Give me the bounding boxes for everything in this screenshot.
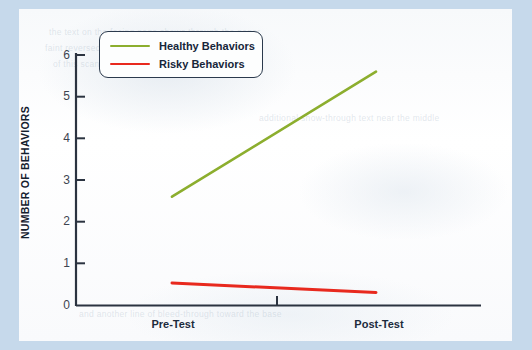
y-tick-marks [76,55,85,263]
line-chart [0,0,532,350]
series-line-risky-behaviors [172,283,376,293]
y-tick-label: 2 [52,214,70,228]
y-tick-label: 0 [52,298,70,312]
legend-swatch-healthy-behaviors [110,45,150,48]
y-tick-label: 3 [52,173,70,187]
legend-label-risky-behaviors: Risky Behaviors [159,58,245,70]
y-tick-label: 4 [52,131,70,145]
chart-legend: Healthy Behaviors Risky Behaviors [99,31,263,78]
legend-item-healthy-behaviors[interactable]: Healthy Behaviors [100,37,262,55]
y-tick-label: 5 [52,89,70,103]
y-tick-label: 6 [52,48,70,62]
x-tick-label-pre-test: Pre-Test [138,318,208,330]
legend-swatch-risky-behaviors [110,63,150,66]
y-tick-label: 1 [52,256,70,270]
series-line-healthy-behaviors [172,72,376,197]
legend-label-healthy-behaviors: Healthy Behaviors [159,40,255,52]
x-tick-label-post-test: Post-Test [344,318,414,330]
legend-item-risky-behaviors[interactable]: Risky Behaviors [100,55,262,73]
y-axis-title: NUMBER OF BEHAVIORS [19,109,31,239]
